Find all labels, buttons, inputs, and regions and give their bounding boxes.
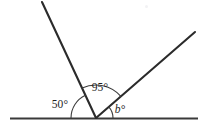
steep-left-ray [42, 2, 96, 118]
label-b-degrees: b° [115, 103, 126, 115]
label-95-degrees: 95° [92, 81, 109, 93]
arc-50-degrees [71, 95, 85, 118]
arc-b-degrees [109, 107, 113, 118]
angle-diagram-canvas: 50° 95° b° [0, 0, 208, 134]
right-ray [96, 32, 195, 118]
scan-speck-artifact [145, 5, 148, 8]
label-50-degrees: 50° [52, 98, 69, 110]
angle-diagram-figure: 50° 95° b° [0, 0, 208, 134]
